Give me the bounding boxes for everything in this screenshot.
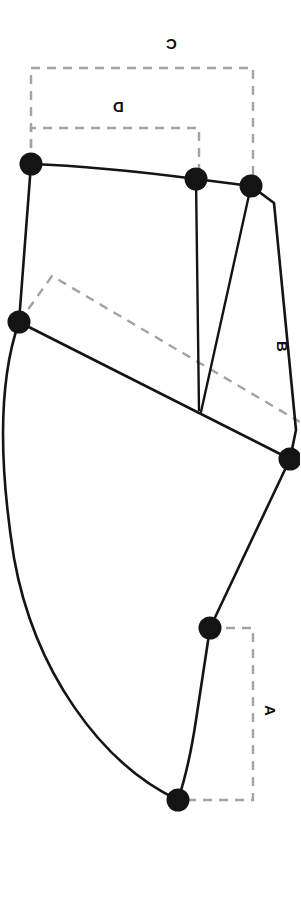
node-top-left[interactable] (20, 153, 43, 176)
outline-top-arc (31, 164, 251, 186)
outline-bottom-right-edge (178, 628, 210, 800)
figure-canvas: C D B A (0, 0, 300, 897)
dimension-label-d: D (113, 100, 124, 115)
outline-lower-right-edge (210, 459, 290, 628)
node-lower-right[interactable] (199, 617, 222, 640)
dimension-label-c: C (166, 37, 177, 52)
outline-shoulder-edge (19, 322, 290, 459)
diagram-svg (0, 0, 300, 897)
dimension-label-a: A (263, 705, 278, 716)
node-left-mid[interactable] (8, 311, 31, 334)
node-top-mid[interactable] (185, 168, 208, 191)
dimension-label-b: B (275, 341, 290, 352)
interior-lines (196, 179, 251, 412)
node-right-mid[interactable] (279, 448, 301, 471)
node-bottom[interactable] (167, 789, 190, 812)
outline-left-edge (19, 164, 31, 322)
node-top-right[interactable] (240, 175, 263, 198)
node-markers (8, 153, 301, 812)
interior-line-vertical (196, 179, 199, 410)
dimension-bracket-a (178, 628, 253, 800)
dimension-bracket-d (31, 128, 199, 179)
dimension-bracket-b (19, 276, 300, 422)
outline-right-edge (251, 186, 296, 459)
outline-left-sweep (3, 322, 178, 800)
